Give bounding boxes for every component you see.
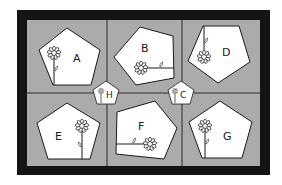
label-d: D [222, 46, 230, 59]
label-b: B [141, 42, 149, 55]
label-f: F [138, 120, 144, 133]
label-g: G [223, 130, 232, 143]
label-h: H [106, 90, 113, 100]
label-e: E [55, 130, 62, 143]
label-a: A [73, 52, 81, 65]
puzzle-diagram: A B D E F G [0, 0, 282, 185]
label-c: C [180, 90, 186, 100]
